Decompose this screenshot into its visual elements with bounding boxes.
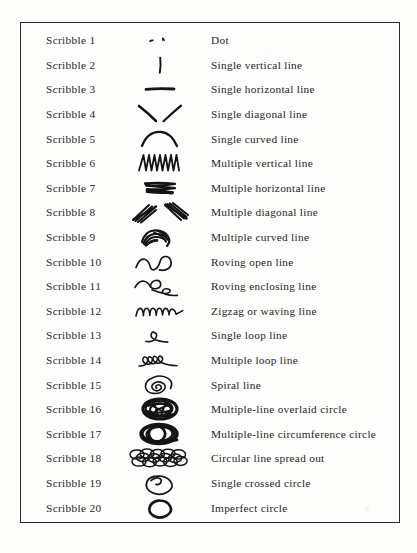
scribble-label: Scribble 17 — [21, 428, 126, 440]
table-row: Scribble 17Multiple-line circumference c… — [21, 422, 399, 447]
table-row: Scribble 1Dot — [21, 28, 399, 53]
scribble-description: Single vertical line — [193, 59, 399, 71]
roving-enclosing-line-icon — [126, 274, 193, 298]
table-row: Scribble 18Circular line spread out — [21, 446, 399, 471]
scribble-label: Scribble 5 — [21, 133, 126, 145]
dot-icon — [126, 31, 193, 49]
table-row: Scribble 7Multiple horizontal line — [21, 176, 399, 201]
scribble-description: Multiple diagonal line — [193, 206, 399, 218]
single-horizontal-line-icon — [126, 81, 193, 97]
scribble-description: Imperfect circle — [193, 502, 399, 514]
scribble-description: Roving enclosing line — [193, 280, 399, 292]
scribble-label: Scribble 2 — [21, 59, 126, 71]
roving-open-line-icon — [126, 251, 193, 273]
scribble-description: Dot — [193, 34, 399, 46]
scribble-label: Scribble 12 — [21, 305, 126, 317]
table-row: Scribble 11Roving enclosing line — [21, 274, 399, 299]
multiple-line-overlaid-circle-icon — [126, 397, 193, 421]
table-row: Scribble 10Roving open line — [21, 249, 399, 274]
table-row: Scribble 4Single diagonal line — [21, 102, 399, 127]
scribble-description: Multiple vertical line — [193, 157, 399, 169]
scribble-label: Scribble 20 — [21, 502, 126, 514]
single-crossed-circle-icon — [126, 472, 193, 494]
table-row: Scribble 13Single loop line — [21, 323, 399, 348]
imperfect-circle-icon — [126, 497, 193, 519]
table-row: Scribble 8Multiple diagonal line — [21, 200, 399, 225]
scribble-label: Scribble 7 — [21, 182, 126, 194]
table-row: Scribble 3Single horizontal line — [21, 77, 399, 102]
scribble-label: Scribble 16 — [21, 403, 126, 415]
scribble-label: Scribble 19 — [21, 477, 126, 489]
multiple-diagonal-line-icon — [126, 200, 193, 224]
single-curved-line-icon — [126, 129, 193, 149]
table-row: Scribble 19Single crossed circle — [21, 471, 399, 496]
table-row: Scribble 2Single vertical line — [21, 53, 399, 78]
table-row: Scribble 12Zigzag or waving line — [21, 299, 399, 324]
multiple-loop-line-icon — [126, 350, 193, 370]
multiple-horizontal-line-icon — [126, 178, 193, 198]
table-row: Scribble 16Multiple-line overlaid circle — [21, 397, 399, 422]
table-row: Scribble 20Imperfect circle — [21, 495, 399, 520]
scribble-label: Scribble 15 — [21, 379, 126, 391]
multiple-vertical-line-icon — [126, 152, 193, 174]
scribble-label: Scribble 9 — [21, 231, 126, 243]
scribble-description: Single loop line — [193, 329, 399, 341]
scribble-description: Single horizontal line — [193, 83, 399, 95]
scribble-description: Circular line spread out — [193, 452, 399, 464]
table-row: Scribble 9Multiple curved line — [21, 225, 399, 250]
scribble-label: Scribble 6 — [21, 157, 126, 169]
scribble-description: Multiple-line circumference circle — [193, 428, 399, 440]
scribble-description: Roving open line — [193, 256, 399, 268]
scribble-description: Multiple curved line — [193, 231, 399, 243]
scribble-label: Scribble 8 — [21, 206, 126, 218]
zigzag-waving-line-icon — [126, 301, 193, 321]
scribble-description: Single diagonal line — [193, 108, 399, 120]
scribble-description: Single curved line — [193, 133, 399, 145]
scribble-label: Scribble 1 — [21, 34, 126, 46]
multiple-line-circumference-circle-icon — [126, 422, 193, 446]
scribble-description: Multiple-line overlaid circle — [193, 403, 399, 415]
scribble-label: Scribble 4 — [21, 108, 126, 120]
spiral-line-icon — [126, 374, 193, 396]
scribble-label: Scribble 18 — [21, 452, 126, 464]
table-row: Scribble 6Multiple vertical line — [21, 151, 399, 176]
scribble-description: Multiple loop line — [193, 354, 399, 366]
scribble-label: Scribble 10 — [21, 256, 126, 268]
table-row: Scribble 14Multiple loop line — [21, 348, 399, 373]
multiple-curved-line-icon — [126, 226, 193, 248]
scribble-table: Scribble 1DotScribble 2Single vertical l… — [20, 22, 400, 523]
scribble-description: Single crossed circle — [193, 477, 399, 489]
table-row: Scribble 5Single curved line — [21, 126, 399, 151]
scribble-label: Scribble 3 — [21, 83, 126, 95]
circular-line-spread-out-icon — [126, 446, 193, 470]
scribble-label: Scribble 11 — [21, 280, 126, 292]
table-body: Scribble 1DotScribble 2Single vertical l… — [21, 23, 399, 522]
scribble-description: Multiple horizontal line — [193, 182, 399, 194]
table-row: Scribble 15Spiral line — [21, 372, 399, 397]
scribble-label: Scribble 13 — [21, 329, 126, 341]
single-diagonal-line-icon — [126, 103, 193, 125]
single-loop-line-icon — [126, 325, 193, 345]
scribble-description: Zigzag or waving line — [193, 305, 399, 317]
scribble-label: Scribble 14 — [21, 354, 126, 366]
single-vertical-line-icon — [126, 55, 193, 75]
scribble-description: Spiral line — [193, 379, 399, 391]
